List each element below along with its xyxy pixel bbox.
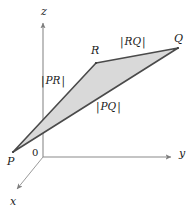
vertex-dot-r — [95, 62, 97, 64]
x-axis-line — [17, 157, 43, 189]
vertex-label-q: Q — [174, 33, 183, 44]
vertex-label-r: R — [91, 45, 99, 56]
geometry-figure: z y x 0 P Q R |PR| |RQ| |PQ| — [0, 0, 191, 215]
vertex-dot-q — [177, 47, 179, 49]
edge-label-pq: |PQ| — [95, 101, 122, 112]
edge-label-pq-close-bar: | — [116, 100, 122, 112]
origin-label: 0 — [32, 148, 38, 158]
x-axis-label: x — [10, 196, 16, 207]
z-axis-label: z — [41, 6, 47, 17]
edge-label-pq-text: PQ — [101, 100, 117, 112]
edge-label-pr-close-bar: | — [61, 74, 67, 86]
edge-label-pr-text: PR — [46, 74, 61, 86]
edge-label-rq-text: RQ — [125, 35, 142, 47]
vertex-dot-p — [12, 151, 14, 153]
vertex-label-p: P — [7, 156, 14, 167]
y-axis-label: y — [179, 148, 185, 159]
edge-label-pr: |PR| — [40, 75, 66, 86]
edge-label-rq: |RQ| — [119, 36, 147, 47]
edge-label-rq-close-bar: | — [141, 35, 147, 47]
